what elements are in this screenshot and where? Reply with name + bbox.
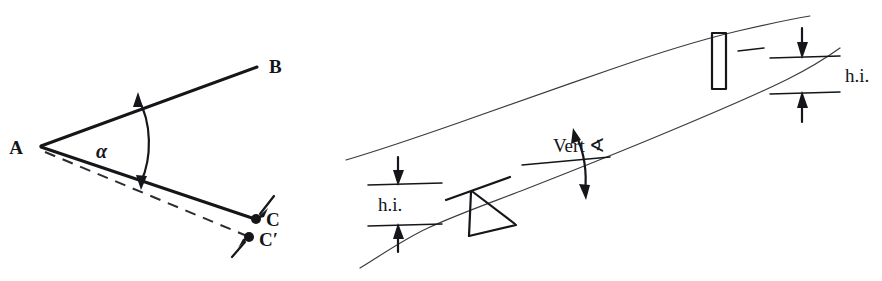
instrument-vertical-post xyxy=(469,192,471,236)
hi-left-lower-tick xyxy=(368,224,442,226)
instrument-tripod-base xyxy=(469,225,516,236)
slope-panel: Vert ∢ h.i. h.i. xyxy=(340,0,882,281)
hi-right-upper-stub-tick xyxy=(738,48,764,51)
leveling-rod xyxy=(712,33,726,89)
vertical-angle-arrowhead-bottom xyxy=(579,184,590,200)
hi-right-lower-tick xyxy=(770,92,840,94)
label-point-b: B xyxy=(269,56,282,77)
hi-right-upper-tick xyxy=(770,56,840,58)
label-point-c: C xyxy=(266,209,280,230)
pointer-arrow-c-prime-shaft xyxy=(232,242,245,257)
label-hi-right: h.i. xyxy=(845,65,869,86)
label-angle-alpha: α xyxy=(96,140,108,162)
pointer-arrow-c-prime-head xyxy=(238,237,249,248)
label-point-a: A xyxy=(9,137,23,158)
angle-arc-arrowhead-top xyxy=(133,92,143,107)
figure-root: A B C C′ α Vert ∢ xyxy=(0,0,882,281)
instrument-tripod-brace xyxy=(473,192,515,224)
label-hi-left: h.i. xyxy=(378,194,402,215)
hi-left-upper-tick xyxy=(368,183,442,185)
label-point-c-prime: C′ xyxy=(259,229,278,250)
label-vertical-angle: Vert ∢ xyxy=(553,135,605,156)
